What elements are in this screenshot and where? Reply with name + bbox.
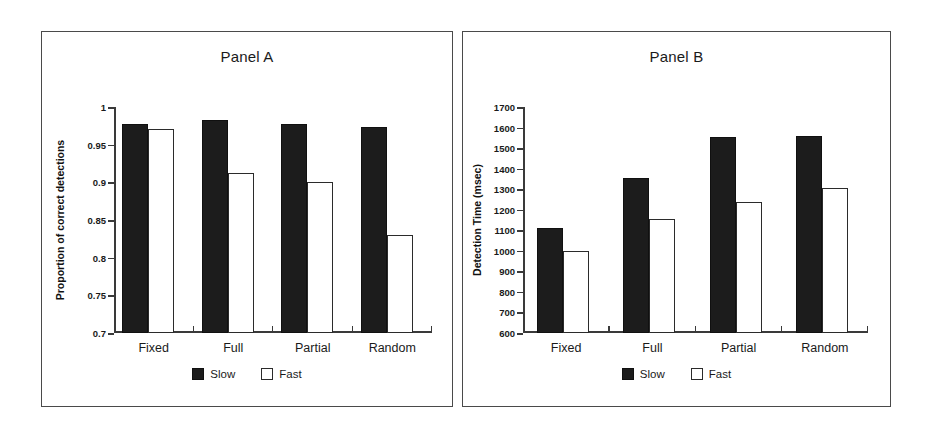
panel-a: Panel A Proportion of correct detections… xyxy=(41,31,453,407)
legend-swatch-fast-icon xyxy=(261,368,273,380)
bar-full-fast xyxy=(649,219,675,333)
bar-partial-slow xyxy=(710,137,736,333)
bar-group: Full xyxy=(609,107,695,333)
bar-partial-slow xyxy=(281,124,307,333)
y-tick-mark xyxy=(517,333,523,335)
x-category-label-full: Full xyxy=(642,341,662,355)
y-tick-label: 1 xyxy=(101,102,106,113)
legend-label-fast: Fast xyxy=(279,368,301,380)
panel-b-legend: Slow Fast xyxy=(463,368,890,380)
y-tick-label: 0.95 xyxy=(88,139,107,150)
legend-label-slow: Slow xyxy=(640,368,665,380)
bar-group: Fixed xyxy=(114,107,194,333)
bar-partial-fast xyxy=(307,182,333,333)
bar-group: Partial xyxy=(273,107,353,333)
y-tick-mark xyxy=(108,333,114,335)
bar-full-fast xyxy=(228,173,254,333)
panel-a-plot-area: Proportion of correct detections 0.70.75… xyxy=(114,107,432,333)
bar-group: Partial xyxy=(696,107,782,333)
bar-group: Random xyxy=(353,107,433,333)
bar-partial-fast xyxy=(736,202,762,333)
bar-random-fast xyxy=(822,188,848,333)
y-tick-label: 1600 xyxy=(494,122,515,133)
bar-full-slow xyxy=(623,178,649,333)
x-category-label-random: Random xyxy=(801,341,848,355)
legend-item-slow: Slow xyxy=(192,368,235,380)
legend-label-slow: Slow xyxy=(210,368,235,380)
x-tick-mark xyxy=(867,326,868,333)
x-category-label-random: Random xyxy=(369,341,416,355)
y-tick-label: 700 xyxy=(499,307,515,318)
y-tick-label: 0.9 xyxy=(93,177,106,188)
legend-label-fast: Fast xyxy=(709,368,731,380)
legend-swatch-fast-icon xyxy=(691,368,703,380)
bar-full-slow xyxy=(202,120,228,333)
bar-fixed-fast xyxy=(563,251,589,333)
y-tick-label: 1100 xyxy=(494,225,515,236)
y-tick-label: 0.75 xyxy=(88,290,107,301)
x-category-label-fixed: Fixed xyxy=(138,341,169,355)
bar-random-fast xyxy=(387,235,413,333)
legend-swatch-slow-icon xyxy=(622,368,634,380)
legend-item-slow: Slow xyxy=(622,368,665,380)
legend-item-fast: Fast xyxy=(261,368,301,380)
x-tick-mark xyxy=(431,326,432,333)
y-tick-label: 1400 xyxy=(494,163,515,174)
x-category-label-full: Full xyxy=(223,341,243,355)
panel-b-y-axis-label: Detection Time (msec) xyxy=(471,164,483,276)
panel-a-legend: Slow Fast xyxy=(42,368,452,380)
legend-item-fast: Fast xyxy=(691,368,731,380)
panel-b-title: Panel B xyxy=(463,48,890,65)
y-tick-label: 600 xyxy=(499,328,515,339)
panel-a-title: Panel A xyxy=(42,48,452,65)
x-category-label-partial: Partial xyxy=(721,341,756,355)
bar-fixed-fast xyxy=(148,129,174,333)
y-tick-label: 0.85 xyxy=(88,215,107,226)
panel-b: Panel B Detection Time (msec) 6007008009… xyxy=(462,31,891,407)
panel-b-plot-area: Detection Time (msec) 600700800900100011… xyxy=(523,107,868,333)
y-tick-label: 1200 xyxy=(494,204,515,215)
x-category-label-partial: Partial xyxy=(295,341,330,355)
bar-random-slow xyxy=(361,127,387,333)
legend-swatch-slow-icon xyxy=(192,368,204,380)
panel-a-y-axis-label: Proportion of correct detections xyxy=(54,140,66,300)
figure-two-panel-bar-chart: Panel A Proportion of correct detections… xyxy=(0,0,936,430)
y-tick-label: 1500 xyxy=(494,143,515,154)
bar-group: Fixed xyxy=(523,107,609,333)
y-tick-label: 0.7 xyxy=(93,328,106,339)
bar-group: Random xyxy=(782,107,868,333)
bar-fixed-slow xyxy=(122,124,148,333)
y-tick-label: 0.8 xyxy=(93,252,106,263)
bar-random-slow xyxy=(796,136,822,333)
x-category-label-fixed: Fixed xyxy=(551,341,582,355)
y-tick-label: 900 xyxy=(499,266,515,277)
y-tick-label: 1700 xyxy=(494,102,515,113)
bar-group: Full xyxy=(194,107,274,333)
y-tick-label: 800 xyxy=(499,286,515,297)
y-tick-label: 1300 xyxy=(494,184,515,195)
y-tick-label: 1000 xyxy=(494,245,515,256)
bar-fixed-slow xyxy=(537,228,563,333)
